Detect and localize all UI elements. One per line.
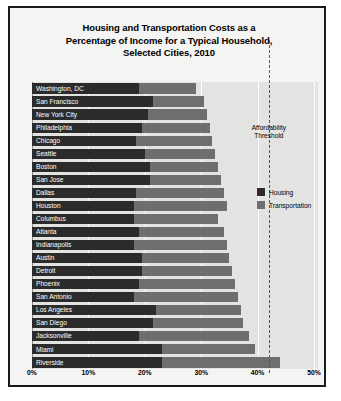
bar-row: Seattle [32, 147, 318, 160]
chart-title-line-3: Selected Cities, 2010 [24, 47, 314, 60]
bar-category-label: Phoenix [36, 280, 60, 287]
bar-segment-transportation [134, 214, 219, 224]
bar-category-label: San Antonio [36, 293, 72, 300]
stacked-bar [32, 201, 227, 211]
bar-segment-transportation [150, 162, 218, 172]
x-tick-label: 40% [251, 369, 265, 376]
bar-row: Riverside [32, 356, 318, 369]
bar-category-label: Indianapolis [36, 241, 71, 248]
bar-category-label: Atlanta [36, 228, 57, 235]
bar-row: Indianapolis [32, 239, 318, 252]
bar-row: Boston [32, 160, 318, 173]
stacked-bar [32, 253, 229, 263]
stacked-bar [32, 266, 232, 276]
bar-segment-transportation [162, 344, 255, 354]
plot-area: Washington, DCSan FranciscoNew York City… [32, 82, 318, 369]
bar-category-label: San Francisco [36, 98, 78, 105]
bar-row: Miami [32, 343, 318, 356]
bar-segment-transportation [136, 188, 223, 198]
bar-category-label: Seattle [36, 150, 57, 157]
bar-category-label: San Diego [36, 319, 67, 326]
chart-legend: Housing Transportation [257, 188, 311, 214]
bar-category-label: New York City [36, 111, 77, 118]
bar-segment-transportation [142, 266, 232, 276]
chart-figure: Housing and Transportation Costs as a Pe… [8, 6, 326, 387]
bar-row: San Jose [32, 173, 318, 186]
bar-category-label: Jacksonville [36, 332, 72, 339]
bar-row: Los Angeles [32, 304, 318, 317]
chart-title-line-1: Housing and Transportation Costs as a [24, 22, 314, 35]
bar-row: San Diego [32, 317, 318, 330]
bar-segment-transportation [139, 279, 235, 289]
legend-swatch-housing [257, 188, 265, 196]
bar-segment-transportation [162, 357, 280, 367]
stacked-bar [32, 279, 235, 289]
bar-category-label: Detroit [36, 267, 55, 274]
stacked-bar [32, 149, 215, 159]
bar-category-label: Dallas [36, 189, 54, 196]
chart-title: Housing and Transportation Costs as a Pe… [24, 22, 314, 60]
stacked-bar [32, 344, 255, 354]
threshold-label-line-2: Threshold [239, 132, 299, 140]
threshold-label-line-1: Affordability [239, 124, 299, 132]
chart-title-line-2: Percentage of Income for a Typical House… [24, 35, 314, 48]
bar-segment-transportation [134, 240, 227, 250]
bar-segment-transportation [156, 305, 241, 315]
bar-row: Columbus [32, 212, 318, 225]
stacked-bar [32, 188, 224, 198]
affordability-threshold-label: Affordability Threshold [239, 124, 299, 141]
legend-label-housing: Housing [269, 189, 293, 196]
bar-row: San Antonio [32, 291, 318, 304]
bar-segment-transportation [153, 318, 243, 328]
bar-category-label: Philadelphia [36, 124, 72, 131]
x-axis: 0%10%20%30%40%50% [32, 369, 318, 387]
bar-category-label: Miami [36, 346, 54, 353]
bar-row: Detroit [32, 265, 318, 278]
bar-category-label: Boston [36, 163, 57, 170]
bar-segment-transportation [145, 149, 216, 159]
bar-category-label: San Jose [36, 176, 64, 183]
bar-category-label: Los Angeles [36, 306, 72, 313]
stacked-bar [32, 357, 280, 367]
bar-row: Atlanta [32, 226, 318, 239]
stacked-bar [32, 162, 218, 172]
bar-segment-transportation [148, 109, 207, 119]
bar-segment-transportation [153, 96, 204, 106]
bar-category-label: Washington, DC [36, 85, 84, 92]
bar-category-label: Riverside [36, 359, 63, 366]
bar-row: New York City [32, 108, 318, 121]
bar-segment-transportation [139, 227, 224, 237]
legend-item-transportation: Transportation [257, 201, 311, 209]
legend-item-housing: Housing [257, 188, 311, 196]
legend-swatch-transportation [257, 201, 265, 209]
x-tick-label: 10% [82, 369, 96, 376]
x-tick-label: 20% [138, 369, 152, 376]
bar-category-label: Chicago [36, 137, 60, 144]
legend-label-transportation: Transportation [269, 202, 311, 209]
bar-segment-transportation [150, 175, 221, 185]
x-tick-label: 30% [194, 369, 208, 376]
bar-segment-transportation [134, 201, 227, 211]
bar-segment-transportation [136, 136, 212, 146]
bar-row: Jacksonville [32, 330, 318, 343]
bar-row: Washington, DC [32, 82, 318, 95]
stacked-bar [32, 227, 224, 237]
bar-segment-transportation [134, 292, 238, 302]
bar-segment-transportation [139, 83, 195, 93]
bar-row: Austin [32, 252, 318, 265]
bar-segment-transportation [142, 123, 210, 133]
bar-segment-transportation [142, 253, 229, 263]
x-tick-label: 50% [307, 369, 321, 376]
bar-row: San Francisco [32, 95, 318, 108]
bar-segment-transportation [139, 331, 249, 341]
x-tick-label: 0% [27, 369, 37, 376]
bar-row: Phoenix [32, 278, 318, 291]
bar-category-label: Columbus [36, 215, 66, 222]
bar-category-label: Austin [36, 254, 54, 261]
bar-category-label: Houston [36, 202, 61, 209]
